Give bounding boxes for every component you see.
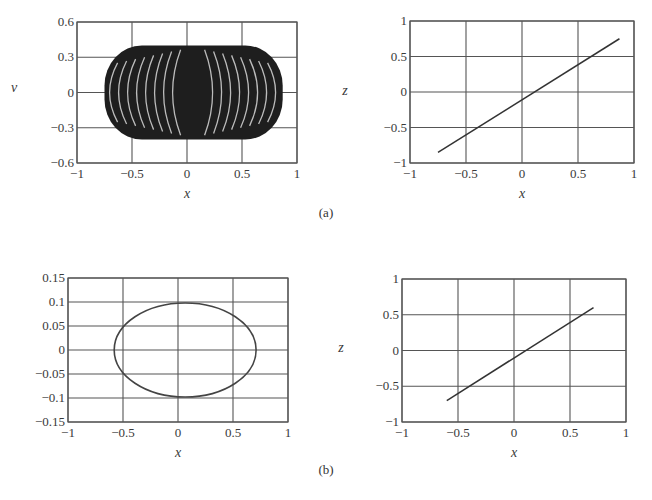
x-tick-label: −0.5 bbox=[120, 166, 144, 181]
y-tick-label: 0.3 bbox=[58, 49, 74, 64]
y-tick-label: 0.1 bbox=[49, 294, 65, 309]
figure-canvas: −1−0.500.51−0.6−0.300.30.6xv−1−0.500.51−… bbox=[0, 0, 652, 500]
panel-label: (a) bbox=[319, 205, 333, 220]
x-tick-label: 0.5 bbox=[570, 166, 586, 181]
x-tick-label: 0 bbox=[175, 425, 182, 440]
y-tick-label: 0.15 bbox=[42, 270, 65, 285]
y-tick-label: −0.3 bbox=[50, 120, 74, 135]
x-tick-label: 1 bbox=[294, 166, 301, 181]
y-tick-label: −0.15 bbox=[35, 414, 65, 429]
x-tick-label: 0 bbox=[519, 166, 526, 181]
y-tick-label: 0 bbox=[393, 343, 400, 358]
grid bbox=[410, 21, 634, 163]
x-axis-label: x bbox=[510, 445, 518, 460]
x-tick-label: 0.5 bbox=[562, 425, 578, 440]
y-tick-label: 1 bbox=[393, 271, 400, 286]
grid bbox=[68, 278, 288, 422]
x-tick-label: 0.5 bbox=[225, 425, 241, 440]
y-tick-label: 0.5 bbox=[391, 49, 407, 64]
x-tick-label: 1 bbox=[631, 166, 638, 181]
y-tick-label: −0.5 bbox=[375, 378, 399, 393]
x-tick-label: 1 bbox=[623, 425, 630, 440]
y-axis-label: v bbox=[11, 80, 18, 95]
y-tick-label: −1 bbox=[393, 155, 407, 170]
torus-point-cloud bbox=[105, 46, 283, 140]
y-tick-label: 0 bbox=[401, 84, 408, 99]
data-line bbox=[438, 39, 619, 153]
x-tick-label: 0 bbox=[184, 166, 191, 181]
x-tick-label: −0.5 bbox=[454, 166, 478, 181]
x-tick-label: 0.5 bbox=[234, 166, 250, 181]
y-tick-label: 0.6 bbox=[58, 14, 75, 29]
y-axis-label: z bbox=[337, 340, 344, 355]
y-tick-label: 1 bbox=[401, 13, 408, 28]
y-tick-label: 0.05 bbox=[42, 318, 65, 333]
x-tick-label: 1 bbox=[285, 425, 292, 440]
y-tick-label: 0.5 bbox=[383, 307, 399, 322]
y-tick-label: 0 bbox=[59, 342, 66, 357]
grid bbox=[402, 279, 626, 422]
plot-a-right: −1−0.500.51−1−0.500.51xz bbox=[341, 13, 637, 201]
y-tick-label: 0 bbox=[68, 85, 75, 100]
y-tick-label: −0.6 bbox=[50, 155, 74, 170]
y-axis-label: z bbox=[341, 83, 348, 98]
plot-b-left: −1−0.500.51−0.15−0.1−0.0500.050.10.15x bbox=[35, 270, 291, 460]
y-tick-label: −0.05 bbox=[35, 366, 65, 381]
y-tick-label: −0.1 bbox=[41, 390, 65, 405]
plot-a-left: −1−0.500.51−0.6−0.300.30.6xv bbox=[11, 14, 300, 201]
x-tick-label: −0.5 bbox=[111, 425, 135, 440]
y-tick-label: −1 bbox=[385, 414, 399, 429]
x-tick-label: 0 bbox=[511, 425, 518, 440]
x-axis-label: x bbox=[174, 445, 182, 460]
x-axis-label: x bbox=[518, 186, 526, 201]
y-tick-label: −0.5 bbox=[383, 120, 407, 135]
plot-b-right: −1−0.500.51−1−0.500.51xz bbox=[337, 271, 629, 460]
x-tick-label: −0.5 bbox=[446, 425, 470, 440]
x-axis-label: x bbox=[183, 186, 191, 201]
panel-label: (b) bbox=[318, 462, 333, 477]
